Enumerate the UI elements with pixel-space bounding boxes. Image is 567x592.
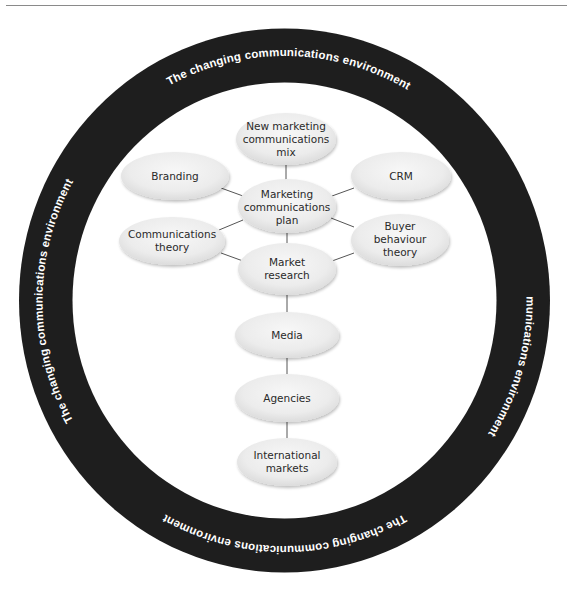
node-label: New marketing	[246, 120, 326, 132]
node-label: markets	[266, 462, 309, 474]
node-crm: CRM	[351, 152, 451, 200]
node-label: Marketing	[261, 188, 313, 200]
node-international-markets: International markets	[237, 438, 337, 486]
node-label: Buyer	[385, 220, 417, 232]
node-market-research: Market research	[238, 243, 336, 295]
node-label: Agencies	[263, 392, 311, 404]
node-label: Branding	[151, 170, 199, 182]
node-label: Communications	[128, 228, 216, 240]
node-label: theory	[383, 246, 417, 258]
node-marketing-communications-plan: Marketing communications plan	[238, 179, 336, 233]
node-label: plan	[276, 214, 299, 226]
node-label: Media	[271, 329, 303, 341]
environment-ring	[19, 29, 550, 573]
node-label: CRM	[389, 170, 413, 182]
node-label: communications	[244, 201, 331, 213]
node-label: communications	[243, 133, 330, 145]
node-branding: Branding	[121, 152, 229, 200]
node-communications-theory: Communications theory	[119, 217, 225, 265]
node-label: behaviour	[374, 233, 427, 245]
node-agencies: Agencies	[235, 374, 339, 422]
communications-diagram: The changing communications environment …	[0, 0, 567, 592]
node-label: research	[264, 269, 309, 281]
node-new-marketing-communications-mix: New marketing communications mix	[236, 113, 336, 165]
node-label: Market	[269, 256, 305, 268]
node-buyer-behaviour-theory: Buyer behaviour theory	[351, 214, 449, 266]
node-label: International	[253, 449, 320, 461]
node-label: mix	[276, 146, 295, 158]
node-label: theory	[155, 241, 189, 253]
node-media: Media	[235, 312, 339, 358]
